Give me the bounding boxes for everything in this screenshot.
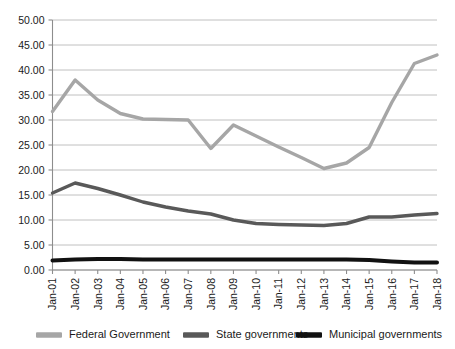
y-axis — [49, 20, 53, 270]
x-tick-label: Jan-16 — [386, 278, 398, 310]
x-tick-label: Jan-01 — [46, 278, 58, 310]
y-tick-label: 10.00 — [18, 214, 44, 226]
x-tick-label: Jan-14 — [340, 278, 352, 310]
x-tick-label: Jan-13 — [318, 278, 330, 310]
y-tick-label: 15.00 — [18, 189, 44, 201]
x-tick-label: Jan-04 — [114, 278, 126, 310]
y-tick-label: 0.00 — [24, 264, 45, 276]
y-tick-label: 25.00 — [18, 139, 44, 151]
x-tick-label: Jan-12 — [295, 278, 307, 310]
x-tick-label: Jan-10 — [250, 278, 262, 310]
x-tick-label: Jan-08 — [205, 278, 217, 310]
y-tick-label: 50.00 — [18, 14, 44, 26]
gridlines — [53, 20, 438, 270]
x-tick-label: Jan-18 — [431, 278, 443, 310]
y-tick-label: 5.00 — [24, 239, 45, 251]
x-tick-label: Jan-02 — [69, 278, 81, 310]
line-chart: 0.005.0010.0015.0020.0025.0030.0035.0040… — [0, 0, 455, 349]
x-tick-labels: Jan-01Jan-02Jan-03Jan-04Jan-05Jan-06Jan-… — [46, 278, 443, 310]
y-tick-label: 30.00 — [18, 114, 44, 126]
x-tick-label: Jan-05 — [137, 278, 149, 310]
legend-swatch-2 — [183, 332, 209, 338]
y-tick-label: 20.00 — [18, 164, 44, 176]
legend-swatch-1 — [36, 332, 62, 338]
series-line-2 — [53, 183, 438, 226]
x-tick-label: Jan-06 — [159, 278, 171, 310]
x-axis — [53, 270, 438, 274]
y-tick-labels: 0.005.0010.0015.0020.0025.0030.0035.0040… — [18, 14, 44, 276]
y-tick-label: 35.00 — [18, 89, 44, 101]
y-tick-label: 45.00 — [18, 39, 44, 51]
series-line-1 — [53, 55, 438, 169]
x-tick-label: Jan-17 — [408, 278, 420, 310]
x-tick-label: Jan-15 — [363, 278, 375, 310]
data-series-group — [53, 55, 438, 263]
y-tick-label: 40.00 — [18, 64, 44, 76]
chart-legend: Federal GovernmentState governmentsMunic… — [36, 328, 443, 340]
x-tick-label: Jan-11 — [272, 278, 284, 309]
chart-canvas: 0.005.0010.0015.0020.0025.0030.0035.0040… — [0, 0, 455, 349]
legend-label-3: Municipal governments — [329, 328, 443, 340]
x-tick-label: Jan-03 — [92, 278, 104, 310]
series-line-3 — [53, 259, 438, 263]
x-tick-label: Jan-07 — [182, 278, 194, 310]
legend-label-2: State governments — [216, 328, 309, 340]
legend-label-1: Federal Government — [69, 328, 170, 340]
legend-swatch-3 — [296, 332, 322, 338]
x-tick-label: Jan-09 — [227, 278, 239, 310]
